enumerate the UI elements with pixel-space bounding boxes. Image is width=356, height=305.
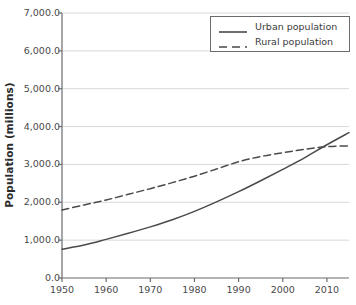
legend-label-rural: Rural population — [255, 37, 333, 47]
series-line-rural — [62, 146, 349, 210]
legend-entry-urban: Urban population — [218, 19, 337, 35]
legend-solid-line-icon — [218, 22, 248, 32]
legend-entry-rural: Rural population — [218, 34, 333, 50]
legend-dashed-line-icon — [218, 37, 248, 47]
legend-label-urban: Urban population — [255, 22, 337, 32]
chart-legend: Urban population Rural population — [210, 16, 350, 52]
population-line-chart: Population (millions) 0.01,000.02,000.03… — [0, 0, 356, 305]
series-line-urban — [62, 133, 349, 250]
